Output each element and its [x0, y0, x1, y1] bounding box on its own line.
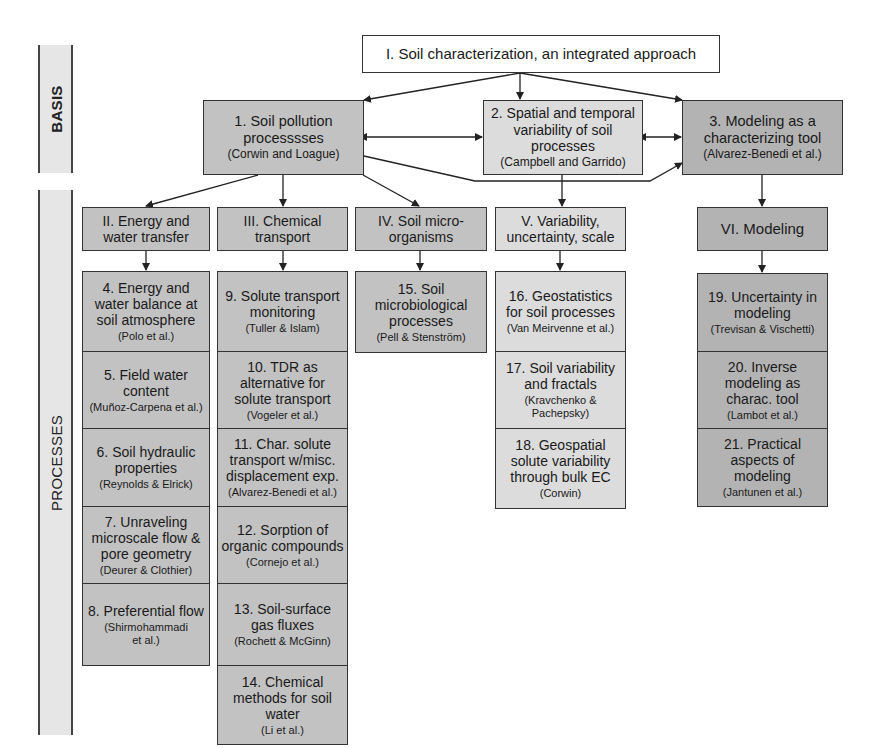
chapter-author: (Vogeler et al.)	[247, 409, 319, 422]
section-vi-chapters: 19. Uncertainty in modeling(Trevisan & V…	[697, 273, 828, 507]
chapter-10: 10. TDR as alternative for solute transp…	[217, 352, 348, 429]
chapter-4: 4. Energy and water balance at soil atmo…	[82, 271, 210, 352]
chapter-title: 20. Inverse modeling as charac. tool	[715, 359, 810, 407]
chapter-7: 7. Unraveling microscale flow & pore geo…	[82, 507, 210, 584]
chapter-title: 11. Char. solute transport w/misc. displ…	[221, 436, 344, 484]
chapter-title: 4. Energy and water balance at soil atmo…	[86, 280, 206, 328]
chapter-title: 5. Field water content	[86, 367, 206, 399]
section-title: VI. Modeling	[721, 220, 804, 237]
chapter-21: 21. Practical aspects of modeling(Jantun…	[697, 429, 828, 507]
processes-label: PROCESSES	[47, 414, 64, 510]
chapter-author: (Li et al.)	[261, 724, 304, 737]
chapter-17: 17. Soil variability and fractals(Kravch…	[495, 352, 626, 429]
section-header-iv: IV. Soil micro-organisms	[355, 207, 487, 251]
chapter-author: (Cornejo et al.)	[246, 556, 319, 569]
chapter-title: 18. Geospatial solute variability throug…	[499, 437, 622, 485]
section-title: V. Variability, uncertainty, scale	[499, 213, 622, 245]
chapter-title: 15. Soil microbiological processes	[369, 281, 474, 329]
chapter-title: 16. Geostatistics for soil processes	[499, 288, 622, 320]
chapter-18: 18. Geospatial solute variability throug…	[495, 429, 626, 509]
section-title: III. Chemical transport	[221, 213, 344, 245]
chapter-author: (Trevisan & Vischetti)	[711, 323, 815, 336]
section-title: IV. Soil micro-organisms	[359, 213, 483, 245]
chapter-title: 8. Preferential flow	[88, 603, 204, 619]
chapter-author: (Polo et al.)	[118, 330, 174, 343]
basis-band: BASIS	[38, 45, 73, 173]
chapter-author: (Campbell and Garrido)	[500, 156, 625, 170]
root-box: I. Soil characterization, an integrated …	[362, 35, 720, 73]
section-header-vi: VI. Modeling	[697, 207, 828, 251]
chapter-title: 13. Soil-surface gas fluxes	[221, 601, 344, 633]
chapter-author: (Alvarez-Benedi et al.)	[703, 148, 822, 162]
chapter-title: 1. Soil pollution processsses	[207, 113, 360, 146]
chapter-author: (Alvarez-Benedi et al.)	[228, 486, 337, 499]
chapter-12: 12. Sorption of organic compounds(Cornej…	[217, 507, 348, 584]
chapter-author: (Van Meirvenne et al.)	[507, 322, 614, 335]
chapter-title: 2. Spatial and temporal variability of s…	[487, 105, 639, 153]
chapter-title: 12. Sorption of organic compounds	[221, 522, 344, 554]
chapter-title: 17. Soil variability and fractals	[499, 360, 622, 392]
chapter-11: 11. Char. solute transport w/misc. displ…	[217, 429, 348, 507]
chapter-13: 13. Soil-surface gas fluxes(Rochett & Mc…	[217, 584, 348, 666]
chapter-author: (Kravchenko & Pachepsky)	[513, 394, 608, 419]
basis-box-2: 2. Spatial and temporal variability of s…	[483, 100, 643, 175]
chapter-title: 6. Soil hydraulic properties	[86, 444, 206, 476]
processes-band: PROCESSES	[38, 190, 73, 735]
chapter-author: (Lambot et al.)	[727, 409, 798, 422]
chapter-author: (Deurer & Clothier)	[100, 564, 192, 577]
chapter-title: 3. Modeling as a characterizing tool	[686, 113, 839, 146]
chapter-author: (Rochett & McGinn)	[234, 635, 331, 648]
chapter-author: (Shirmohammadi et al.)	[101, 621, 191, 646]
chapter-title: 7. Unraveling microscale flow & pore geo…	[86, 514, 206, 562]
chapter-author: (Corwin)	[540, 487, 582, 500]
chapter-8: 8. Preferential flow(Shirmohammadi et al…	[82, 584, 210, 666]
chapter-title: 19. Uncertainty in modeling	[708, 289, 818, 321]
section-header-v: V. Variability, uncertainty, scale	[495, 207, 626, 251]
section-title: II. Energy and water transfer	[86, 213, 206, 245]
chapter-title: 9. Solute transport monitoring	[221, 288, 344, 320]
chapter-author: (Corwin and Loague)	[227, 148, 339, 162]
section-v-chapters: 16. Geostatistics for soil processes(Van…	[495, 271, 626, 509]
section-header-iii: III. Chemical transport	[217, 207, 348, 251]
basis-label: BASIS	[47, 85, 64, 132]
chapter-title: 10. TDR as alternative for solute transp…	[221, 359, 344, 407]
section-ii-chapters: 4. Energy and water balance at soil atmo…	[82, 271, 210, 666]
chapter-16: 16. Geostatistics for soil processes(Van…	[495, 271, 626, 352]
chapter-author: (Tuller & Islam)	[245, 322, 319, 335]
chapter-9: 9. Solute transport monitoring(Tuller & …	[217, 271, 348, 352]
chapter-author: (Reynolds & Elrick)	[99, 478, 193, 491]
basis-box-1: 1. Soil pollution processsses (Corwin an…	[203, 100, 364, 175]
section-iv-chapters: 15. Soil microbiological processes(Pell …	[355, 271, 487, 353]
basis-box-3: 3. Modeling as a characterizing tool (Al…	[682, 100, 843, 175]
chapter-14: 14. Chemical methods for soil water(Li e…	[217, 666, 348, 745]
chapter-19: 19. Uncertainty in modeling(Trevisan & V…	[697, 273, 828, 352]
chapter-title: 14. Chemical methods for soil water	[233, 674, 333, 722]
section-header-ii: II. Energy and water transfer	[82, 207, 210, 251]
chapter-author: (Pell & Stenström)	[376, 331, 465, 344]
chapter-20: 20. Inverse modeling as charac. tool(Lam…	[697, 352, 828, 429]
chapter-6: 6. Soil hydraulic properties(Reynolds & …	[82, 429, 210, 507]
chapter-15: 15. Soil microbiological processes(Pell …	[355, 271, 487, 353]
chapter-title: 21. Practical aspects of modeling	[715, 436, 810, 484]
chapter-5: 5. Field water content(Muñoz-Carpena et …	[82, 352, 210, 429]
section-iii-chapters: 9. Solute transport monitoring(Tuller & …	[217, 271, 348, 745]
chapter-author: (Jantunen et al.)	[723, 486, 803, 499]
chapter-author: (Muñoz-Carpena et al.)	[89, 401, 202, 414]
root-title: I. Soil characterization, an integrated …	[386, 45, 696, 62]
